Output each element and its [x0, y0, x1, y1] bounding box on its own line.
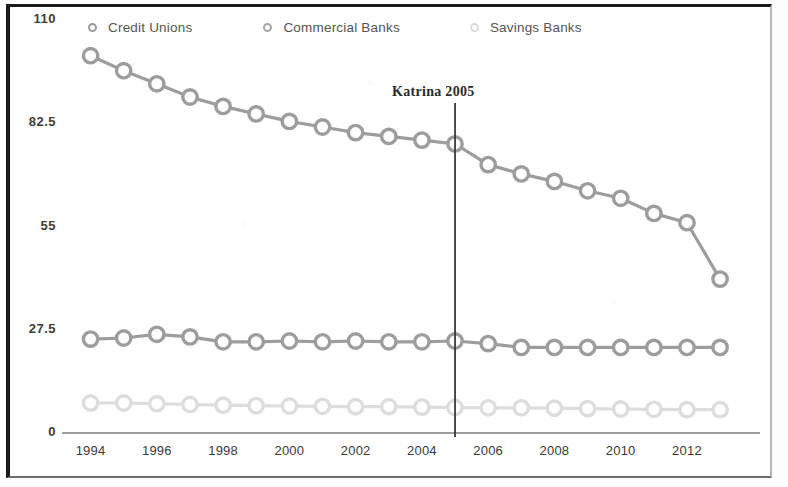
data-point-marker	[713, 340, 727, 354]
y-tick-label: 82.5	[29, 114, 56, 129]
data-point-marker	[249, 107, 263, 121]
data-point-marker	[547, 401, 561, 415]
y-tick-label: 27.5	[29, 321, 56, 336]
data-point-marker	[514, 401, 528, 415]
data-point-marker	[348, 400, 362, 414]
data-point-marker	[150, 77, 164, 91]
data-point-marker	[680, 340, 694, 354]
data-point-marker	[514, 167, 528, 181]
data-point-marker	[614, 402, 628, 416]
data-point-marker	[614, 340, 628, 354]
data-point-marker	[183, 330, 197, 344]
data-point-marker	[415, 133, 429, 147]
plot-area	[0, 0, 788, 487]
data-point-marker	[249, 398, 263, 412]
data-point-marker	[614, 191, 628, 205]
y-tick-label: 0	[48, 424, 56, 439]
data-point-marker	[647, 206, 661, 220]
annotation-label-katrina: Katrina 2005	[392, 84, 475, 100]
y-tick-label: 110	[34, 11, 56, 26]
data-point-marker	[216, 99, 230, 113]
data-point-marker	[647, 340, 661, 354]
data-point-marker	[547, 174, 561, 188]
data-point-marker	[117, 396, 131, 410]
data-point-marker	[183, 397, 197, 411]
data-point-marker	[382, 400, 396, 414]
data-point-marker	[249, 335, 263, 349]
data-point-marker	[282, 399, 296, 413]
data-point-marker	[348, 125, 362, 139]
data-point-marker	[282, 334, 296, 348]
data-point-marker	[117, 331, 131, 345]
data-point-marker	[547, 340, 561, 354]
data-point-marker	[382, 129, 396, 143]
data-point-marker	[680, 403, 694, 417]
data-point-marker	[481, 157, 495, 171]
series-layer	[83, 49, 727, 417]
series-commercial-banks	[83, 327, 727, 355]
data-point-marker	[481, 336, 495, 350]
data-point-marker	[315, 399, 329, 413]
data-point-marker	[382, 335, 396, 349]
data-point-marker	[83, 49, 97, 63]
data-point-marker	[680, 216, 694, 230]
series-savings-banks	[83, 396, 727, 417]
data-point-marker	[83, 396, 97, 410]
data-point-marker	[315, 120, 329, 134]
data-point-marker	[580, 401, 594, 415]
data-point-marker	[481, 401, 495, 415]
data-point-marker	[83, 332, 97, 346]
data-point-marker	[282, 114, 296, 128]
data-point-marker	[183, 90, 197, 104]
data-point-marker	[150, 327, 164, 341]
data-point-marker	[415, 335, 429, 349]
chart-screenshot: Credit Unions Commercial Banks Savings B…	[0, 0, 788, 487]
data-point-marker	[415, 400, 429, 414]
data-point-marker	[315, 335, 329, 349]
data-point-marker	[348, 334, 362, 348]
data-point-marker	[580, 184, 594, 198]
data-point-marker	[117, 63, 131, 77]
data-point-marker	[713, 272, 727, 286]
data-point-marker	[647, 402, 661, 416]
x-tick-label: 2012	[647, 443, 727, 458]
data-point-marker	[150, 397, 164, 411]
data-point-marker	[580, 340, 594, 354]
data-point-marker	[713, 403, 727, 417]
data-point-marker	[216, 335, 230, 349]
data-point-marker	[514, 340, 528, 354]
data-point-marker	[216, 398, 230, 412]
y-tick-label: 55	[41, 218, 56, 233]
